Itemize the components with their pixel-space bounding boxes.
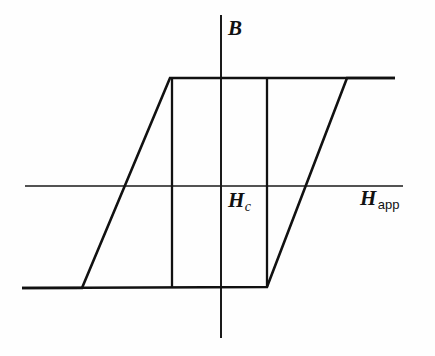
h-app-axis-label-symbol: H xyxy=(360,186,377,210)
descending-branch-curve xyxy=(22,78,395,288)
coercivity-label: Hc xyxy=(228,190,251,214)
hysteresis-loop-figure: B Happ Hc xyxy=(0,0,435,356)
b-axis-label-symbol: B xyxy=(228,16,243,40)
ascending-branch-curve xyxy=(22,78,395,288)
coercivity-label-symbol: H xyxy=(228,188,245,212)
h-app-axis-label: Happ xyxy=(360,188,400,211)
b-axis-label: B xyxy=(228,18,243,39)
hysteresis-loop-drawing xyxy=(0,0,435,356)
h-app-axis-label-subscript: app xyxy=(378,197,400,212)
coercivity-label-subscript: c xyxy=(245,199,251,214)
